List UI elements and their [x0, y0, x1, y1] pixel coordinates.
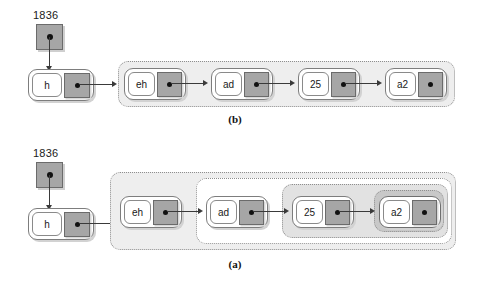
list-node-pointer	[412, 200, 437, 225]
25-to-a2-arrow-head	[370, 208, 375, 214]
pointer-dot-icon	[428, 82, 433, 87]
panel-b: 1836 h eh ad	[0, 0, 478, 135]
ad-to-25-arrow-shaft	[253, 211, 286, 212]
pointer-dot-icon	[75, 222, 80, 227]
head-node-key: h	[32, 212, 62, 236]
panel-a-caption: (a)	[215, 258, 255, 270]
list-node-a2: a2	[385, 68, 447, 100]
pointer-dot-icon	[75, 83, 80, 88]
ad-to-25-arrow-head	[290, 80, 295, 86]
25-to-a2-arrow-head	[377, 80, 382, 86]
root-pointer-label: 1836	[33, 9, 58, 21]
list-node-a2: a2	[379, 196, 441, 228]
list-node-key: a2	[383, 200, 410, 224]
list-node-key: 25	[302, 72, 329, 96]
list-node-key: a2	[389, 72, 416, 96]
eh-to-ad-arrow-head	[198, 208, 203, 214]
list-node-key: ad	[215, 72, 242, 96]
linked-list-figure: 1836 h eh ad	[0, 0, 478, 289]
head-to-eh-arrow-head	[112, 81, 117, 87]
root-pointer-label: 1836	[33, 147, 58, 159]
ad-to-25-arrow-head	[284, 208, 289, 214]
root-to-head-arrow-shaft	[49, 37, 50, 69]
panel-a: 1836 h eh	[0, 140, 478, 289]
panel-b-caption: (b)	[215, 113, 255, 125]
ad-to-25-arrow-shaft	[258, 83, 292, 84]
list-node-key: eh	[124, 200, 151, 224]
list-node-key: eh	[128, 72, 155, 96]
25-to-a2-arrow-shaft	[345, 83, 379, 84]
eh-to-ad-arrow-shaft	[171, 83, 205, 84]
25-to-a2-arrow-shaft	[339, 211, 372, 212]
head-to-eh-arrow-shaft	[80, 84, 115, 85]
head-node-key: h	[32, 73, 62, 97]
eh-to-ad-arrow-shaft	[167, 211, 200, 212]
eh-to-ad-arrow-head	[203, 80, 208, 86]
list-node-pointer	[418, 72, 443, 97]
pointer-dot-icon	[422, 210, 427, 215]
list-node-key: 25	[296, 200, 323, 224]
root-to-head-arrow-shaft	[49, 175, 50, 208]
list-node-key: ad	[210, 200, 237, 224]
